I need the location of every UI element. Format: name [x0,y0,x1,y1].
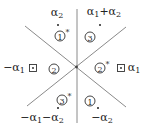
label-alpha2: α2 [51,7,64,20]
origin-point [75,66,78,69]
root-point-alpha1 [120,67,122,69]
region-left: 2 [49,62,60,75]
region-bottom-right: 1 [85,94,96,107]
root-point-neg-alpha1 [32,67,34,69]
circled-number: 1 [55,31,66,42]
circled-number: 2 [95,63,106,74]
label-neg-alpha1-minus-alpha2: −α1−α2 [20,112,64,125]
root-point-neg-alpha1-minus-alpha2 [57,107,59,109]
label-neg-alpha1: −α1 [3,62,25,75]
label-alpha1-plus-alpha2: α1+α2 [87,6,121,19]
circled-number: 2 [49,64,60,75]
label-alpha1: α1 [128,62,141,75]
region-top-right: 3 [85,30,96,43]
root-system-diagram: α2 α1+α2 −α1 α1 −α1−α2 −α2 1* 3 2 2* 3* … [0,0,147,129]
root-point-alpha2 [57,24,59,26]
region-bottom-left: 3* [57,93,72,106]
region-right: 2* [95,61,110,74]
root-point-neg-alpha2 [97,107,99,109]
root-point-alpha1-plus-alpha2 [99,24,101,26]
circled-number: 1 [85,96,96,107]
region-top-left: 1* [55,29,70,42]
label-neg-alpha2: −α2 [91,112,113,125]
circled-number: 3 [57,95,68,106]
circled-number: 3 [85,32,96,43]
